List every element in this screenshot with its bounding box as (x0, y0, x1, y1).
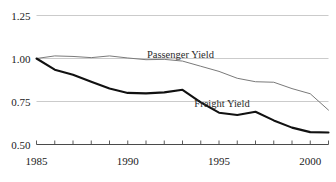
x-tick-label: 1990 (117, 155, 140, 167)
y-tick-label: 1.00 (11, 53, 31, 65)
chart-container: 1.251.000.750.50 1985199019952000 Passen… (0, 0, 336, 182)
y-tick-label: 1.25 (11, 10, 31, 22)
x-tick-label: 1985 (26, 155, 49, 167)
y-axis-tick-labels: 1.251.000.750.50 (11, 10, 31, 151)
x-axis-tick-labels: 1985199019952000 (26, 155, 322, 167)
series-label-passenger-yield: Passenger Yield (147, 49, 215, 60)
x-axis (37, 141, 329, 145)
data-series (37, 56, 329, 133)
line-chart: 1.251.000.750.50 1985199019952000 Passen… (0, 0, 336, 182)
x-tick-label: 1995 (208, 155, 231, 167)
series-line-freight-yield (37, 59, 329, 133)
series-label-freight-yield: Freight Yield (194, 98, 250, 109)
y-tick-label: 0.50 (11, 139, 31, 151)
series-line-passenger-yield (37, 56, 329, 110)
y-tick-label: 0.75 (11, 96, 31, 108)
series-annotations: Passenger YieldFreight Yield (147, 49, 251, 109)
x-tick-label: 2000 (299, 155, 322, 167)
